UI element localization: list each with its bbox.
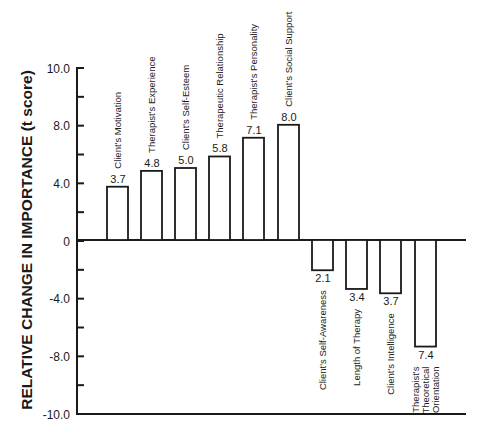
bar bbox=[380, 240, 401, 293]
bar bbox=[175, 168, 196, 240]
y-axis-title: RELATIVE CHANGE IN IMPORTANCE (t score) bbox=[18, 70, 35, 410]
bar-item: 8.0Client's Social Support bbox=[278, 11, 299, 240]
bar bbox=[346, 240, 367, 289]
bar-value-label: 3.7 bbox=[110, 173, 125, 185]
category-label: Client's Self-Esteem bbox=[180, 65, 191, 150]
bar-value-label: 2.1 bbox=[315, 272, 330, 284]
category-label: Client's Social Support bbox=[283, 11, 294, 107]
bar-value-label: 3.4 bbox=[349, 291, 364, 303]
category-label: Therapist's Personality bbox=[248, 24, 259, 120]
category-label: Therapist's Experience bbox=[146, 57, 157, 153]
bar-item: 3.7Client's Intelligence bbox=[380, 240, 401, 395]
category-label: Client's Intelligence bbox=[385, 313, 396, 395]
y-axis: 10.08.04.00-4.0-8.0-10.0 bbox=[43, 62, 84, 422]
y-tick-label: 0 bbox=[63, 235, 70, 249]
bar-value-label: 7.4 bbox=[418, 349, 433, 361]
y-tick-label: -8.0 bbox=[49, 350, 70, 364]
y-tick-label: -10.0 bbox=[43, 408, 71, 422]
y-tick-label: 8.0 bbox=[53, 119, 70, 133]
category-label: Client's Motivation bbox=[112, 92, 123, 169]
bar bbox=[278, 125, 299, 240]
y-tick-label: 4.0 bbox=[53, 177, 70, 191]
bars-group: 3.7Client's Motivation4.8Therapist's Exp… bbox=[107, 11, 441, 413]
bar-item: 3.7Client's Motivation bbox=[107, 92, 128, 240]
bar-item: 2.1Client's Self-Awareness bbox=[312, 240, 333, 390]
bar-value-label: 7.1 bbox=[246, 124, 261, 136]
bar bbox=[107, 187, 128, 240]
bar-item: 5.0Client's Self-Esteem bbox=[175, 65, 196, 240]
bar-item: 7.4Therapist'sTheoreticalOrientation bbox=[410, 240, 441, 414]
y-tick-label: -4.0 bbox=[49, 292, 70, 306]
bar bbox=[415, 240, 436, 347]
bar-item: 3.4Length of Therapy bbox=[346, 240, 367, 386]
bar bbox=[243, 138, 264, 240]
bar-item: 4.8Therapist's Experience bbox=[141, 57, 162, 240]
y-tick-label: 10.0 bbox=[47, 62, 71, 76]
bar bbox=[141, 171, 162, 240]
category-label: Client's Self-Awareness bbox=[317, 290, 328, 390]
bar-chart: RELATIVE CHANGE IN IMPORTANCE (t score) … bbox=[0, 0, 482, 437]
bar-value-label: 8.0 bbox=[281, 111, 296, 123]
bar-value-label: 3.7 bbox=[383, 295, 398, 307]
bar bbox=[209, 156, 230, 240]
bar-item: 5.8Therapeutic Relationship bbox=[209, 33, 230, 240]
category-label: Orientation bbox=[430, 367, 441, 413]
bar-value-label: 4.8 bbox=[144, 157, 159, 169]
bar-item: 7.1Therapist's Personality bbox=[243, 24, 264, 240]
bar bbox=[312, 240, 333, 270]
category-label: Therapeutic Relationship bbox=[214, 33, 225, 138]
bar-value-label: 5.0 bbox=[178, 154, 193, 166]
bar-value-label: 5.8 bbox=[212, 142, 227, 154]
category-label: Length of Therapy bbox=[351, 309, 362, 386]
